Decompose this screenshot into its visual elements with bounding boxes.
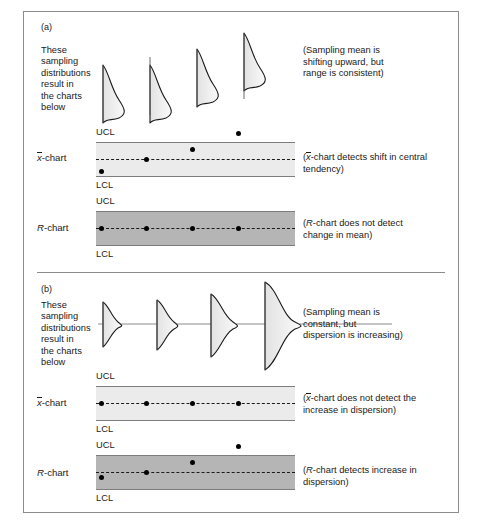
panel-b-lead-line-6: below [41,357,103,368]
panel-b-xbar-point-3 [190,401,195,406]
panel-a-dist-note-line-3: range is consistent) [303,68,471,80]
panel-a-r-symbol: R [37,222,44,233]
panel-a-dist-2 [150,57,171,123]
panel-b-lead-line-4: result in [41,334,103,345]
panel-b-xbar-point-4 [236,401,241,406]
panel-b-xbar-ucl-label: UCL [96,371,115,382]
panel-b-dist-2 [157,300,178,350]
panel-a-lead-line-3: distributions [41,68,103,79]
panel-a-r-suffix: -chart [44,222,69,233]
panel-a-r-note-line-1: (R-chart does not detect [303,218,471,230]
panel-a-xbar-suffix: -chart [42,152,67,163]
panel-a-xbar-ucl-line [96,142,295,143]
panel-b-r-ucl-label: UCL [96,440,115,451]
panel-a-xbar-point-3 [190,147,195,152]
panel-a-lead-line-1: These [41,45,103,56]
panel-a-r-note-rest: -chart does not detect [313,218,403,228]
panel-b-xbar-suffix: -chart [42,397,67,408]
panel-b-xbar-point-1 [99,401,104,406]
panel-a-xbar-note-rest: -chart detects shift in central [311,152,427,162]
panel-b-r-point-2 [144,470,149,475]
panel-b-lead-line-5: the charts [41,346,103,357]
panel-b-dist-note-line-2: constant, but [303,319,471,331]
panel-a-lead-line-6: below [41,102,103,113]
panel-a-xbar-point-1 [99,169,104,174]
panel-b-tag: (b) [41,284,52,295]
panel-a-dist-note-line-1: (Sampling mean is [303,45,471,57]
panel-a-xbar-center-line [96,159,295,160]
panel-a-dist-4 [244,33,265,99]
panel-a-xbar-point-4 [236,131,241,136]
panel-b-r-suffix: -chart [44,467,69,478]
panel-a-tag: (a) [41,22,52,33]
panel-b-xbar-note: (x-chart does not detect the increase in… [303,393,471,416]
panel-divider [37,272,445,273]
panel-a-r-lcl-label: LCL [96,249,113,260]
panel-a-r-ucl-line [96,211,295,212]
panel-b-r-note-symbol: R [306,465,313,475]
panel-b-r-note: (R-chart detects increase in dispersion) [303,465,471,488]
panel-b-lead-text: These sampling distributions result in t… [41,300,103,368]
panel-a-xbar-note-line-1: (x-chart detects shift in central [303,152,471,164]
panel-b-r-point-1 [99,475,104,480]
panel-a-xbar-ucl-label: UCL [96,127,115,138]
panel-a-r-point-1 [99,226,104,231]
panel-b-xbar-lcl-label: LCL [96,424,113,435]
panel-b-xbar-note-rest: -chart does not detect the [311,393,416,403]
panel-a-xbar-point-2 [144,157,149,162]
panel-a-r-ucl-label: UCL [96,196,115,207]
panel-b-lead-line-2: sampling [41,311,103,322]
panel-a-dist-1 [103,65,124,123]
panel-a-xbar-note-line-2: tendency) [303,164,471,176]
panel-b-xbar-note-line-1: (x-chart does not detect the [303,393,471,405]
panel-b-dist-note: (Sampling mean is constant, but dispersi… [303,307,471,342]
panel-b-dist-note-line-3: dispersion is increasing) [303,330,471,342]
panel-a-dist-note: (Sampling mean is shifting upward, but r… [303,45,471,80]
panel-b-r-chart-label: R-chart [37,467,68,478]
panel-b-xbar-point-2 [144,401,149,406]
panel-b-lead-line-3: distributions [41,323,103,334]
panel-b-r-center-line [96,472,295,473]
panel-a-r-chart-label: R-chart [37,222,68,233]
panel-a-r-point-3 [190,226,195,231]
panel-a-dist-3 [197,49,218,107]
panel-b-xbar-center-line [96,403,295,404]
panel-b-r-note-line-2: dispersion) [303,477,471,489]
panel-b-r-lcl-line [96,489,295,490]
panel-a-distributions [95,18,295,130]
panel-a-r-note-symbol: R [306,218,313,228]
panel-b-xbar-note-line-2: increase in dispersion) [303,405,471,417]
panel-a-xbar-chart-label: x-chart [37,152,66,163]
figure-root: (a) These sampling distributions result … [0,0,479,527]
panel-a-dist-note-line-2: shifting upward, but [303,57,471,69]
panel-b-r-point-3 [190,460,195,465]
panel-a-r-point-2 [144,226,149,231]
panel-a-lead-line-2: sampling [41,56,103,67]
panel-a-xbar-lcl-label: LCL [96,180,113,191]
panel-b-xbar-ucl-line [96,386,295,387]
panel-b-xbar-chart-label: x-chart [37,397,66,408]
panel-a-lead-line-5: the charts [41,91,103,102]
panel-b-dist-4 [265,282,301,370]
panel-b-r-note-rest: -chart detects increase in [313,465,417,475]
panel-b-r-ucl-line [96,455,295,456]
panel-a-r-note-line-2: change in mean) [303,230,471,242]
panel-b-r-symbol: R [37,467,44,478]
panel-a-r-point-4 [236,226,241,231]
panel-b-dist-1 [103,302,122,347]
panel-b-r-point-4 [236,444,241,449]
panel-a-lead-line-4: result in [41,79,103,90]
panel-a-xbar-note: (x-chart detects shift in central tenden… [303,152,471,175]
panel-b-r-note-line-1: (R-chart detects increase in [303,465,471,477]
panel-a-r-lcl-line [96,245,295,246]
panel-a-xbar-lcl-line [96,176,295,177]
panel-b-dist-3 [211,294,238,357]
panel-b-lead-line-1: These [41,300,103,311]
panel-a-lead-text: These sampling distributions result in t… [41,45,103,113]
panel-a-r-center-line [96,228,295,229]
panel-b-dist-note-line-1: (Sampling mean is [303,307,471,319]
panel-b-xbar-lcl-line [96,420,295,421]
panel-b-r-lcl-label: LCL [96,493,113,504]
panel-a-r-note: (R-chart does not detect change in mean) [303,218,471,241]
